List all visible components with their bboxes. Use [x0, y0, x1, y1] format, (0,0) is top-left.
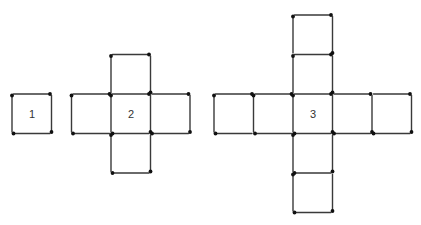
- match-head-icon: [109, 54, 113, 58]
- match-head-icon: [250, 92, 254, 96]
- match-head-icon: [291, 54, 295, 58]
- match-head-icon: [70, 94, 74, 98]
- figure-label: 1: [29, 108, 35, 120]
- figure-2: 2: [70, 53, 192, 175]
- match-head-icon: [372, 132, 376, 136]
- figure-label: 3: [310, 108, 316, 120]
- match-head-icon: [331, 51, 335, 55]
- figure-3: 3: [212, 13, 413, 214]
- match-head-icon: [290, 92, 294, 96]
- figure-label: 2: [128, 108, 134, 120]
- match-head-icon: [332, 132, 336, 136]
- matchstick-pattern-diagram: 1 2 3: [0, 0, 421, 225]
- match-head-icon: [150, 132, 154, 136]
- figure-1: 1: [10, 92, 53, 135]
- match-head-icon: [212, 94, 216, 98]
- match-head-icon: [108, 92, 112, 96]
- match-head-icon: [291, 15, 295, 19]
- match-head-icon: [291, 173, 295, 177]
- match-head-icon: [10, 94, 14, 98]
